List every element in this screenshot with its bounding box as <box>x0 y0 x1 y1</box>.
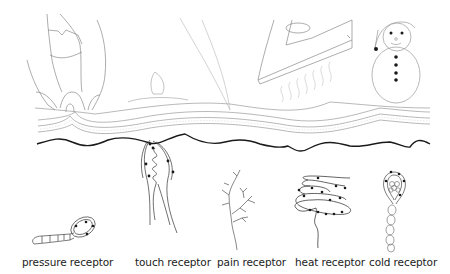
fingers-pressing-icon <box>27 14 106 112</box>
heat-receptor-icon <box>295 176 351 248</box>
dermis-boundary-line <box>37 134 430 151</box>
needle-icon <box>180 18 230 110</box>
skin-receptors-diagram: pressure receptor touch receptor pain re… <box>0 0 450 274</box>
label-pain-receptor: pain receptor <box>217 256 286 268</box>
label-pressure-receptor: pressure receptor <box>22 256 113 268</box>
label-touch-receptor: touch receptor <box>135 256 211 268</box>
label-cold-receptor: cold receptor <box>369 256 437 268</box>
cold-receptor-icon <box>383 171 405 252</box>
iron-icon <box>258 20 352 84</box>
steam-icon <box>281 62 331 102</box>
label-heat-receptor: heat receptor <box>295 256 365 268</box>
pain-receptor-icon <box>222 170 255 250</box>
snowman-icon <box>372 22 420 103</box>
candle-flame-icon <box>128 72 188 102</box>
pressure-receptor-icon <box>33 213 99 244</box>
touch-receptor-icon <box>141 140 177 233</box>
diagram-art <box>0 0 450 274</box>
